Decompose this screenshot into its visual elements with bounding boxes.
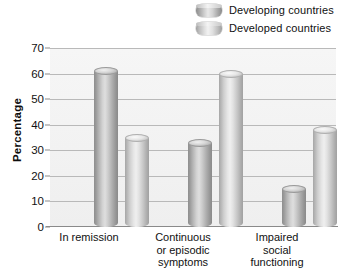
bar-dark-0 <box>94 67 118 227</box>
y-tick-label: 30 <box>6 144 50 156</box>
y-tick-label: 60 <box>6 68 50 80</box>
cylinder-light-icon <box>196 22 222 35</box>
bar-light-1 <box>219 70 243 227</box>
bars-container <box>50 48 336 227</box>
bar-dark-2 <box>282 185 306 227</box>
legend-item-developing: Developing countries <box>196 2 348 18</box>
cylinder-dark-icon <box>196 4 222 17</box>
y-tick-label: 20 <box>6 170 50 182</box>
legend-label-developing: Developing countries <box>229 4 334 16</box>
legend-label-developed: Developed countries <box>229 22 331 34</box>
x-axis-labels: In remissionContinuousor episodicsymptom… <box>50 231 336 277</box>
legend-item-developed: Developed countries <box>196 20 348 36</box>
bar-dark-1 <box>188 139 212 227</box>
y-tick-label: 10 <box>6 195 50 207</box>
x-category-line: Impaired <box>222 231 332 244</box>
bar-light-2 <box>313 126 337 227</box>
x-category-line: social <box>222 244 332 257</box>
x-category-line: functioning <box>222 256 332 269</box>
bar-chart: Percentage 010203040506070 In remissionC… <box>0 38 350 277</box>
y-tick-label: 70 <box>6 42 50 54</box>
bar-light-0 <box>125 134 149 228</box>
chart-legend: Developing countries Developed countries <box>196 2 348 38</box>
y-axis-labels: 010203040506070 <box>0 48 50 227</box>
x-category-label-2: Impairedsocialfunctioning <box>222 231 332 269</box>
y-tick-label: 40 <box>6 119 50 131</box>
y-tick-label: 50 <box>6 93 50 105</box>
